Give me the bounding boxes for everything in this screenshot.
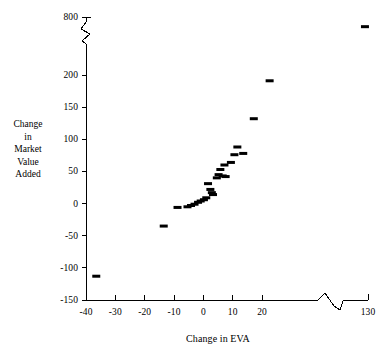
- data-point: [239, 152, 247, 155]
- y-tick-label: -100: [28, 263, 78, 273]
- data-point: [209, 193, 217, 196]
- x-tick-label: 0: [201, 307, 206, 317]
- data-point: [227, 161, 235, 164]
- x-tick-label: -10: [168, 307, 181, 317]
- x-tick-label: 130: [361, 307, 376, 317]
- scatter-plot-figure: 800200150100500-50-100-150 -40-30-20-100…: [0, 0, 376, 353]
- y-tick-label: 800: [28, 12, 78, 22]
- y-tick-label: 150: [28, 102, 78, 112]
- y-axis-title-line: Change: [2, 118, 54, 131]
- y-axis-line: [81, 17, 90, 300]
- y-axis-title-line: in: [2, 131, 54, 144]
- data-point: [250, 117, 258, 120]
- data-point: [160, 225, 168, 228]
- x-tick-label: 20: [257, 307, 267, 317]
- data-point: [220, 164, 228, 167]
- y-tick-label: -150: [28, 295, 78, 305]
- data-point: [174, 206, 182, 209]
- y-tick-label: -50: [28, 231, 78, 241]
- data-point: [202, 196, 210, 199]
- y-tick-label: 0: [28, 199, 78, 209]
- data-point: [230, 153, 238, 156]
- data-point: [266, 79, 274, 82]
- x-tick-label: -30: [109, 307, 122, 317]
- data-point: [361, 25, 369, 28]
- tick-marks: [82, 17, 262, 300]
- y-axis-title-line: Added: [2, 168, 54, 181]
- y-axis-title-line: Value: [2, 156, 54, 169]
- data-points: [92, 25, 369, 278]
- data-point: [216, 168, 224, 171]
- x-axis-title: Change in EVA: [60, 333, 376, 344]
- y-axis-title-line: Market: [2, 143, 54, 156]
- data-point: [222, 175, 230, 178]
- y-axis-title: ChangeinMarketValueAdded: [2, 118, 54, 181]
- x-tick-label: -40: [80, 307, 93, 317]
- y-tick-label: 200: [28, 70, 78, 80]
- data-point: [206, 188, 214, 191]
- x-tick-label: -20: [138, 307, 151, 317]
- data-point: [92, 275, 100, 278]
- x-tick-label: 10: [228, 307, 238, 317]
- data-point: [204, 182, 212, 185]
- data-point: [233, 146, 241, 149]
